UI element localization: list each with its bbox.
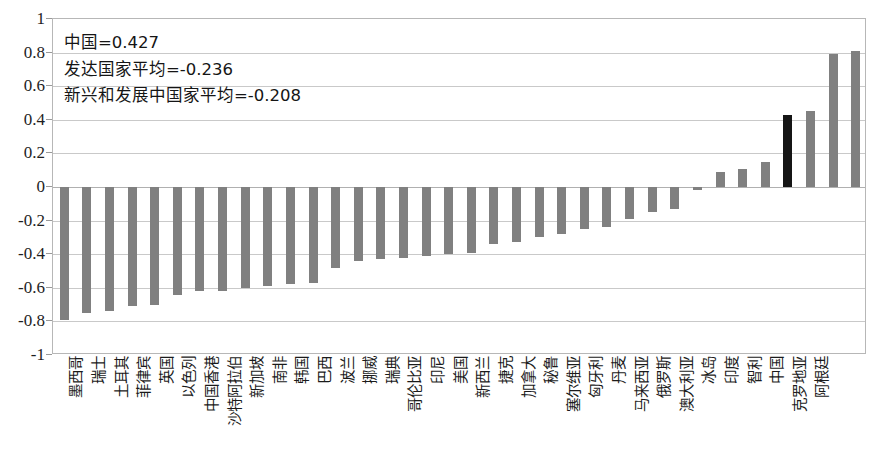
bar	[738, 169, 747, 187]
bar	[60, 187, 69, 320]
y-tick-label: -1	[31, 346, 45, 363]
x-tick-label: 智利	[748, 356, 763, 384]
x-tick-label: 挪威	[363, 356, 378, 384]
x-tick-label: 捷克	[499, 356, 514, 384]
bar	[761, 162, 770, 187]
x-tick-label: 印尼	[431, 356, 446, 384]
y-tick-label: 0	[37, 178, 46, 195]
x-tick-label: 南非	[273, 356, 288, 384]
x-tick-label: 沙特阿拉伯	[228, 356, 243, 426]
bar	[354, 187, 363, 261]
bar	[331, 187, 340, 268]
y-tick-label: -0.6	[18, 278, 45, 295]
bar	[535, 187, 544, 237]
bar	[580, 187, 589, 229]
x-tick-label: 新加坡	[250, 356, 265, 398]
bar	[82, 187, 91, 313]
bar	[173, 187, 182, 295]
x-tick-label: 中国香港	[205, 356, 220, 412]
y-tick-label: 0.8	[24, 43, 45, 60]
bar	[150, 187, 159, 305]
bar	[422, 187, 431, 256]
x-tick-label: 冰岛	[702, 356, 717, 384]
y-tick-mark	[46, 354, 52, 355]
x-tick-label: 秘鲁	[544, 356, 559, 384]
annotation-line-developed-avg: 发达国家平均=-0.236	[64, 57, 301, 84]
x-tick-label: 中国	[770, 356, 785, 384]
x-tick-label: 克罗地亚	[793, 356, 808, 412]
x-tick-label: 加拿大	[522, 356, 537, 398]
x-tick-label: 英国	[160, 356, 175, 384]
x-tick-label: 匈牙利	[589, 356, 604, 398]
bar	[851, 51, 860, 187]
annotation-line-emerging-avg: 新兴和发展中国家平均=-0.208	[64, 83, 301, 110]
bar	[648, 187, 657, 212]
chart-annotation: 中国=0.427 发达国家平均=-0.236 新兴和发展中国家平均=-0.208	[64, 30, 301, 110]
bar-highlighted-china	[783, 115, 792, 187]
x-tick-label: 新西兰	[476, 356, 491, 398]
annotation-line-china: 中国=0.427	[64, 30, 301, 57]
y-tick-label: -0.4	[18, 245, 45, 262]
x-tick-label: 马来西亚	[635, 356, 650, 412]
bar	[489, 187, 498, 244]
y-tick-label: 0.2	[24, 144, 45, 161]
x-tick-label: 巴西	[318, 356, 333, 384]
bar	[670, 187, 679, 209]
x-tick-label: 菲律宾	[137, 356, 152, 398]
bar	[105, 187, 114, 311]
y-axis: 10.80.60.40.20-0.2-0.4-0.6-0.8-1	[0, 0, 52, 356]
x-tick-label: 哥伦比亚	[408, 356, 423, 412]
bar	[716, 172, 725, 187]
x-tick-label: 印度	[725, 356, 740, 384]
bar	[693, 187, 702, 190]
x-tick-label: 澳大利亚	[680, 356, 695, 412]
y-tick-label: -0.2	[18, 211, 45, 228]
x-tick-label: 俄罗斯	[657, 356, 672, 398]
bar	[218, 187, 227, 291]
bar	[602, 187, 611, 227]
bar	[625, 187, 634, 219]
bar	[467, 187, 476, 253]
x-tick-label: 韩国	[295, 356, 310, 384]
x-tick-label: 土耳其	[115, 356, 130, 398]
bar	[241, 187, 250, 288]
x-tick-label: 瑞士	[92, 356, 107, 384]
bar-chart: 10.80.60.40.20-0.2-0.4-0.6-0.8-1 中国=0.42…	[0, 0, 871, 476]
x-tick-label: 阿根廷	[815, 356, 830, 398]
bar	[444, 187, 453, 254]
bar	[263, 187, 272, 286]
bar	[195, 187, 204, 291]
bar	[286, 187, 295, 284]
bar	[399, 187, 408, 258]
bar	[376, 187, 385, 259]
y-tick-label: 1	[37, 10, 46, 27]
x-tick-label: 瑞典	[386, 356, 401, 384]
bar	[829, 54, 838, 187]
bar	[309, 187, 318, 283]
bar	[806, 111, 815, 187]
y-tick-label: -0.8	[18, 312, 45, 329]
x-tick-label: 丹麦	[612, 356, 627, 384]
y-tick-label: 0.4	[24, 110, 45, 127]
x-tick-label: 塞尔维亚	[567, 356, 582, 412]
x-tick-label: 美国	[454, 356, 469, 384]
x-tick-label: 墨西哥	[69, 356, 84, 398]
y-tick-label: 0.6	[24, 77, 45, 94]
x-tick-label: 以色列	[182, 356, 197, 398]
x-tick-label: 波兰	[341, 356, 356, 384]
bar	[557, 187, 566, 234]
bar	[512, 187, 521, 242]
x-axis: 墨西哥瑞士土耳其菲律宾英国以色列中国香港沙特阿拉伯新加坡南非韩国巴西波兰挪威瑞典…	[52, 356, 866, 476]
bar	[128, 187, 137, 306]
